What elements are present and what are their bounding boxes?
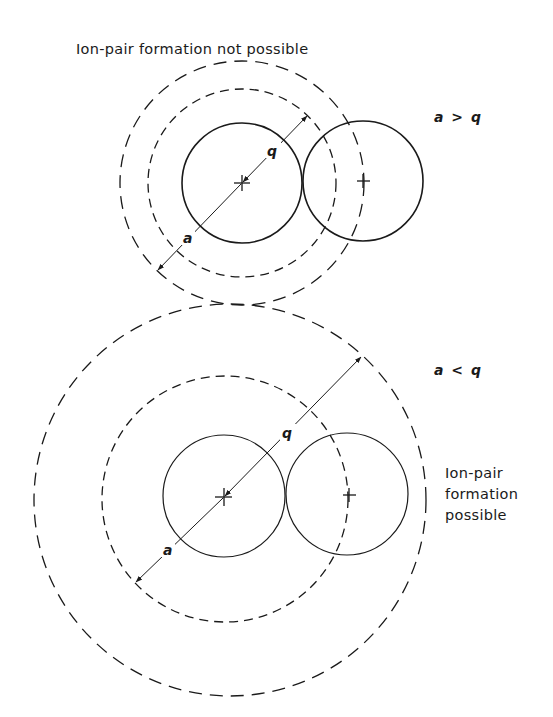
bottom-right-ion	[286, 433, 408, 555]
bottom-caption-line-1: Ion-pair	[445, 465, 503, 481]
top-caption: Ion-pair formation not possible	[76, 41, 308, 57]
bottom-panel: a < q Ion-pair formation possible q a	[34, 304, 518, 696]
bottom-inner-dashed-circle-a	[102, 376, 348, 622]
bottom-caption-line-3: possible	[445, 507, 507, 523]
bottom-q-label: q	[282, 425, 292, 441]
top-a-radius-arrow	[158, 184, 241, 270]
top-a-label: a	[183, 230, 192, 246]
top-condition-label: a > q	[434, 109, 481, 125]
top-right-ion-center-icon	[357, 174, 370, 188]
bottom-right-ion-center-icon	[343, 488, 356, 502]
bottom-caption-line-2: formation	[445, 486, 518, 502]
bottom-condition-label: a < q	[434, 362, 481, 378]
top-q-label: q	[267, 143, 277, 159]
ion-pair-diagram: Ion-pair formation not possible a > q q …	[0, 0, 553, 717]
bottom-a-label: a	[163, 542, 172, 558]
bottom-outer-dashed-circle-q	[34, 304, 426, 696]
bottom-a-radius-arrow	[136, 498, 223, 582]
top-panel: Ion-pair formation not possible a > q q …	[76, 41, 481, 305]
